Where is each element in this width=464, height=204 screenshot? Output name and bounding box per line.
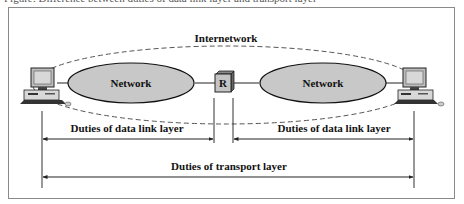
span-data-link-left-label: Duties of data link layer (70, 122, 183, 134)
internetwork-diagram: Internetwork Network Network R (0, 0, 464, 204)
span-transport: Duties of transport layer (43, 160, 413, 177)
network-right-label: Network (303, 77, 345, 89)
internetwork-label: Internetwork (195, 32, 259, 44)
network-left: Network (68, 63, 194, 103)
right-host-computer-icon (394, 68, 444, 106)
left-host-computer-icon (20, 68, 71, 106)
guide-lines (42, 98, 414, 188)
span-transport-label: Duties of transport layer (171, 160, 287, 172)
span-data-link-left: Duties of data link layer (43, 122, 213, 139)
router: R (215, 71, 234, 92)
network-right: Network (260, 63, 386, 103)
span-data-link-right-label: Duties of data link layer (277, 122, 390, 134)
router-label: R (219, 77, 228, 89)
span-data-link-right: Duties of data link layer (234, 122, 413, 139)
network-left-label: Network (111, 77, 153, 89)
